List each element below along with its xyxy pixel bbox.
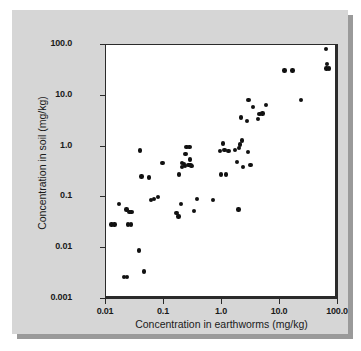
plot-area (105, 44, 337, 298)
y-tick-mark (100, 247, 105, 248)
scatter-point (187, 145, 191, 149)
scatter-point (189, 164, 193, 168)
y-tick-label: 10.0 (55, 89, 72, 99)
scatter-point (248, 163, 252, 167)
x-tick-mark (105, 299, 106, 304)
x-tick-mark (279, 299, 280, 304)
scatter-point (290, 68, 294, 72)
y-tick-mark (100, 95, 105, 96)
scatter-point (129, 222, 133, 226)
scatter-point (240, 138, 244, 142)
scatter-point (138, 148, 142, 152)
scatter-point (236, 207, 240, 211)
y-tick-mark (100, 146, 105, 147)
y-tick-mark (100, 44, 105, 45)
x-tick-label: 1.0 (191, 306, 251, 316)
x-tick-label: 10.0 (249, 306, 309, 316)
x-tick-label: 100.0 (307, 306, 361, 316)
figure-root: 0.0010.010.11.010.0100.0 0.010.11.010.01… (0, 0, 361, 351)
scatter-point (224, 172, 228, 176)
scatter-point (147, 175, 151, 179)
scatter-point (112, 222, 116, 226)
scatter-point (160, 161, 164, 165)
scatter-point (219, 172, 223, 176)
scatter-point (221, 141, 225, 145)
y-tick-label: 0.001 (50, 292, 72, 302)
scatter-point (177, 172, 181, 176)
scatter-point (260, 111, 264, 115)
scatter-point (183, 152, 187, 156)
y-tick-label: 0.01 (55, 241, 72, 251)
y-axis-title: Concentration in soil (mg/kg) (36, 63, 48, 263)
scatter-point (239, 115, 243, 119)
scatter-point (327, 66, 331, 70)
scatter-point (211, 198, 215, 202)
x-tick-mark (163, 299, 164, 304)
scatter-point (129, 210, 133, 214)
y-tick-mark (100, 196, 105, 197)
figure-panel: 0.0010.010.11.010.0100.0 0.010.11.010.01… (12, 10, 348, 334)
x-tick-label: 0.1 (133, 306, 193, 316)
x-tick-mark (221, 299, 222, 304)
y-axis-right-rule (335, 44, 338, 299)
x-axis-title: Concentration in earthworms (mg/kg) (105, 318, 338, 330)
scatter-point (139, 174, 143, 178)
y-tick-label: 100.0 (50, 38, 72, 48)
scatter-point (226, 149, 230, 153)
x-tick-mark (337, 299, 338, 304)
y-tick-label: 1.0 (60, 140, 72, 150)
scatter-point (142, 269, 146, 273)
y-tick-label: 0.1 (60, 190, 72, 200)
x-tick-label: 0.01 (75, 306, 135, 316)
scatter-point (176, 214, 180, 218)
scatter-point (282, 68, 286, 72)
scatter-point (246, 98, 250, 102)
